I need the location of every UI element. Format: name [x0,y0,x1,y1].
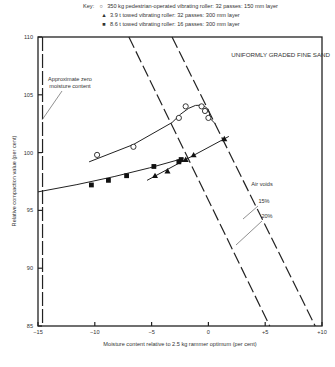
square-fit-line [38,158,183,192]
open-circle-marker [131,144,136,149]
open-circle-marker [94,152,99,157]
y-axis-label: Relative compaction value (per cent) [11,135,17,226]
x-tick-label: +10 [317,329,327,335]
chart-title: UNIFORMLY GRADED FINE SAND [231,51,330,58]
x-tick-label: −10 [90,329,100,335]
y-tick-label: 105 [24,92,33,98]
triangle-fit-line [147,136,229,180]
filled-square-marker [179,157,184,162]
zero-moisture-label-2: moisture content [49,83,91,89]
open-circle-marker [206,115,211,120]
zero-moisture-leader [42,91,62,120]
circle-fit-curve [89,105,215,162]
open-circle-marker [202,108,207,113]
air-voids-15-label: 15% [258,198,269,204]
filled-square-marker [124,173,129,178]
chart-plot: −15−10−50+5+10859095100105110 UNIFORMLY … [0,0,335,367]
filled-square-marker [151,164,156,169]
x-tick-label: 0 [207,329,210,335]
y-tick-label: 95 [27,207,33,213]
air-voids-20-label: 20% [261,213,272,219]
filled-square-marker [106,178,111,183]
x-tick-label: −15 [33,329,43,335]
x-tick-label: −5 [148,329,154,335]
open-circle-marker [199,104,204,109]
open-circle-marker [183,104,188,109]
y-tick-label: 100 [24,150,33,156]
y-tick-label: 110 [24,34,33,40]
y-tick-label: 85 [27,323,33,329]
zero-moisture-label-1: Approximate zero [48,76,92,82]
filled-square-marker [89,183,94,188]
air-voids-20-line [172,37,315,326]
x-tick-label: +5 [262,329,268,335]
x-axis-label: Moisture content relative to 2.5 kg ramm… [103,341,256,347]
y-tick-label: 90 [27,265,33,271]
open-circle-marker [176,115,181,120]
air-voids-label: Air voids [251,181,273,187]
air-voids-20-leader [236,221,262,245]
air-voids-15-line [129,37,270,326]
air-voids-15-leader [243,206,258,219]
